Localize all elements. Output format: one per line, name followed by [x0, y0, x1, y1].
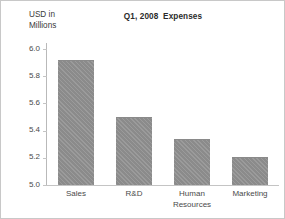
y-axis-title: USD in Millions [29, 10, 56, 31]
bar-chart: Q1, 2008 Expenses USD in Millions 6.05.8… [0, 0, 285, 219]
y-axis-tick-label: 5.6 [29, 98, 40, 107]
x-axis-category-labels: SalesR&DHumanResourcesMarketing [47, 189, 279, 217]
x-axis-category-label: HumanResources [163, 189, 221, 210]
x-axis-category-label-line: R&D [105, 189, 163, 200]
y-axis-title-line-2: Millions [29, 21, 56, 32]
x-axis-line [46, 185, 279, 186]
bar [174, 139, 210, 185]
bar [232, 157, 268, 185]
plot-area: 6.05.85.65.45.25.0 [47, 49, 279, 185]
y-axis-tick-label: 5.4 [29, 125, 40, 134]
x-axis-category-label-line: Human [163, 189, 221, 200]
y-axis-tick-label: 5.8 [29, 71, 40, 80]
bar [116, 117, 152, 185]
x-axis-category-label: R&D [105, 189, 163, 200]
x-axis-category-label-line: Sales [47, 189, 105, 200]
y-axis-tick-mark [43, 185, 47, 186]
y-axis-title-line-1: USD in [29, 10, 56, 21]
chart-title: Q1, 2008 Expenses [47, 12, 279, 21]
bars-layer [47, 49, 279, 185]
y-axis-tick-label: 5.0 [29, 180, 40, 189]
x-axis-category-label: Sales [47, 189, 105, 200]
x-axis-category-label-line: Resources [163, 200, 221, 211]
bar [58, 60, 94, 185]
y-axis-tick-label: 5.2 [29, 152, 40, 161]
y-axis-tick-label: 6.0 [29, 44, 40, 53]
x-axis-category-label-line: Marketing [221, 189, 279, 200]
x-axis-category-label: Marketing [221, 189, 279, 200]
